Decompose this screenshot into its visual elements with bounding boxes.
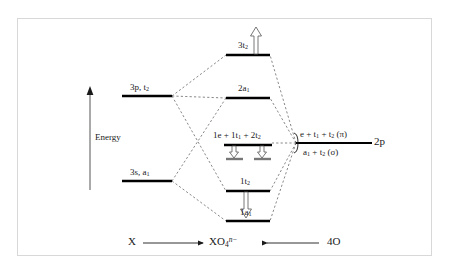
energy-axis [87, 86, 94, 190]
up-arrow-icon [87, 86, 94, 95]
right-fragment-sigma-label: a1 + t2 (σ) [303, 148, 338, 157]
bottom-species-right: 4O [327, 236, 340, 247]
bottom-species-left: X [128, 236, 136, 247]
level-label-3p-t2: 3p, t2 [130, 83, 149, 92]
level-label-nonbonding: 1e + 1t1 + 2t2 [213, 131, 261, 140]
level-label-3s-a1: 3s, a1 [130, 168, 150, 177]
bottom-species-center: XO4n− [209, 236, 237, 248]
level-label-2a1: 2a1 [238, 84, 250, 93]
level-label-1a1: 1a1 [240, 208, 252, 217]
level-label-3t2: 3t2 [238, 41, 248, 50]
level-label-1t2: 1t2 [240, 177, 250, 186]
right-fragment-pi-label: e + t1 + t2 (π) [300, 130, 347, 139]
arrow-up-3t2 [251, 27, 262, 54]
arrow-down-nb-right [258, 146, 267, 158]
energy-axis-label: Energy [95, 133, 121, 142]
figure-canvas: Energy 3p, t2 3s, a1 3t2 2a1 1e + 1t1 + … [0, 0, 451, 275]
arrow-down-nb-left [230, 146, 239, 158]
orbital-label-2p: 2p [374, 136, 385, 147]
